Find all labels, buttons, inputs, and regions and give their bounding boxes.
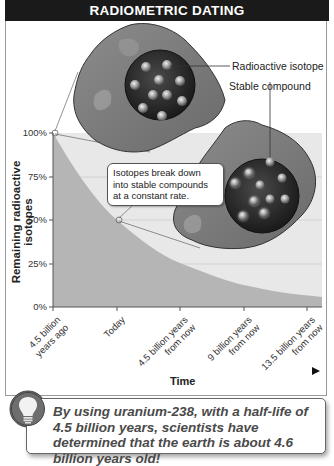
lightbulb-badge	[11, 392, 45, 426]
x-axis-label: Time	[170, 375, 195, 387]
y-axis-label: Remaining radioactive isotopes	[10, 152, 34, 292]
fact-box: By using uranium-238, with a half-life o…	[26, 398, 326, 454]
radioactive-isotope-label: Radioactive isotope	[232, 60, 324, 72]
decay-callout: Isotopes break down into stable compound…	[107, 163, 224, 206]
ytick-0: 0%	[17, 301, 47, 312]
stable-compound-label: Stable compound	[229, 80, 311, 92]
rock-sample-past	[74, 24, 225, 152]
fact-text: By using uranium-238, with a half-life o…	[53, 404, 319, 466]
ytick-100: 100%	[17, 127, 47, 138]
